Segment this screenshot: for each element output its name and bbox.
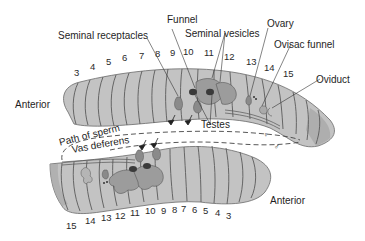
upper-segment-number: 9 bbox=[170, 48, 175, 58]
label-anterior-bottom: Anterior bbox=[270, 196, 305, 206]
label-oviduct: Oviduct bbox=[316, 75, 350, 85]
label-funnel: Funnel bbox=[167, 15, 198, 25]
male-symbol: ♂ bbox=[274, 143, 279, 150]
upper-segment-number: 6 bbox=[122, 53, 127, 63]
lower-segment-number: 3 bbox=[226, 211, 231, 221]
lower-segment-number: 8 bbox=[172, 205, 177, 215]
upper-segment-number: 3 bbox=[74, 68, 79, 78]
upper-segment-number: 13 bbox=[246, 57, 257, 67]
lower-segment-number: 5 bbox=[203, 206, 208, 216]
lower-segment-number: 7 bbox=[181, 204, 186, 214]
label-seminal-receptacles: Seminal receptacles bbox=[58, 31, 148, 41]
lower-segment-number: 11 bbox=[130, 208, 140, 218]
label-anterior-top: Anterior bbox=[15, 100, 50, 110]
upper-segment-number: 7 bbox=[139, 51, 144, 61]
upper-segment-number: 10 bbox=[183, 47, 194, 57]
lower-segment-number: 14 bbox=[85, 216, 96, 226]
upper-segment-number: 11 bbox=[204, 48, 214, 58]
female-symbol: ♀ bbox=[263, 131, 268, 138]
label-testes: Testes bbox=[201, 120, 230, 130]
lower-segment-number: 6 bbox=[192, 205, 197, 215]
upper-segment-number: 4 bbox=[90, 62, 95, 72]
lower-worm bbox=[50, 146, 271, 214]
upper-segment-number: 5 bbox=[106, 57, 111, 67]
label-ovary: Ovary bbox=[267, 19, 294, 29]
label-ovisac-funnel: Ovisac funnel bbox=[274, 40, 335, 50]
label-seminal-vesicles: Seminal vesicles bbox=[185, 29, 259, 39]
lower-segment-number: 12 bbox=[115, 211, 126, 221]
upper-segment-number: 12 bbox=[224, 52, 235, 62]
upper-segment-number: 8 bbox=[155, 49, 160, 59]
upper-segment-number: 15 bbox=[283, 69, 294, 79]
lower-segment-number: 10 bbox=[145, 206, 156, 216]
lower-segment-number: 9 bbox=[161, 206, 166, 216]
lower-segment-number: 13 bbox=[101, 213, 112, 223]
lower-segment-number: 15 bbox=[66, 221, 77, 231]
upper-segment-number: 14 bbox=[264, 63, 275, 73]
lower-segment-number: 4 bbox=[215, 208, 220, 218]
